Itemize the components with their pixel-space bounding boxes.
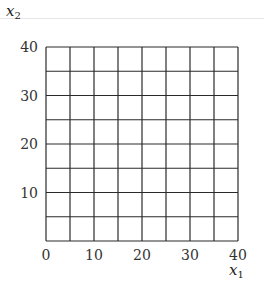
x-axis-label: x1 [229, 263, 244, 280]
x-axis-label-subscript: 1 [237, 269, 243, 280]
y-tick-10: 10 [20, 186, 38, 200]
x-tick-20: 20 [133, 248, 151, 262]
x-tick-0: 0 [42, 248, 51, 262]
x-tick-30: 30 [181, 248, 199, 262]
plot-grid [0, 0, 264, 297]
x-tick-10: 10 [85, 248, 103, 262]
y-tick-40: 40 [20, 40, 38, 54]
y-tick-20: 20 [20, 137, 38, 151]
y-tick-30: 30 [20, 89, 38, 103]
x-tick-40: 40 [229, 248, 247, 262]
